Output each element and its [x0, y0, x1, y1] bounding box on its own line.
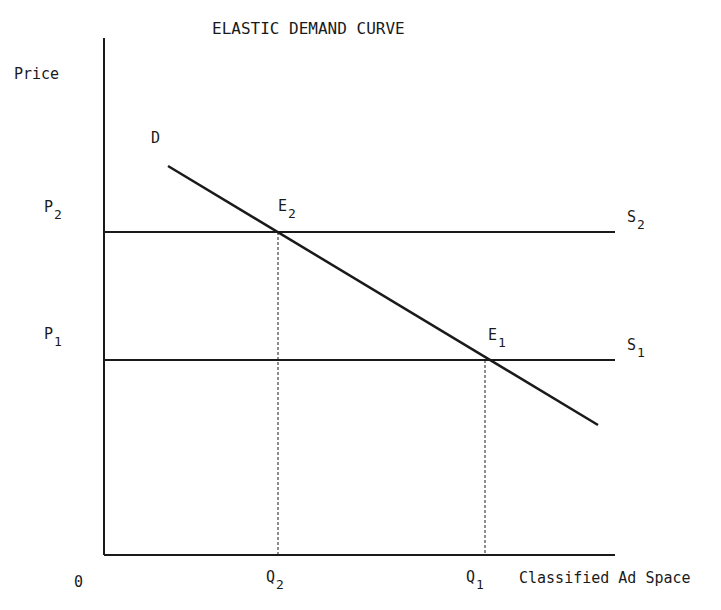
- supply-s1-label: S1: [627, 338, 645, 353]
- supply-s2-label: S2: [627, 210, 645, 225]
- point-e1-label: E1: [488, 328, 506, 343]
- x-axis-label: Classified Ad Space: [519, 571, 691, 586]
- demand-label: D: [151, 131, 160, 146]
- tick-p2: P2: [44, 200, 62, 215]
- tick-q2: Q2: [266, 570, 284, 585]
- chart-title: ELASTIC DEMAND CURVE: [212, 21, 405, 37]
- tick-q1: Q1: [466, 570, 484, 585]
- point-e2-label: E2: [278, 199, 296, 214]
- y-axis-label: Price: [14, 67, 59, 82]
- demand-line: [168, 166, 598, 425]
- diagram-canvas: [0, 0, 721, 610]
- tick-p1: P1: [44, 327, 62, 342]
- origin-label: 0: [74, 575, 83, 590]
